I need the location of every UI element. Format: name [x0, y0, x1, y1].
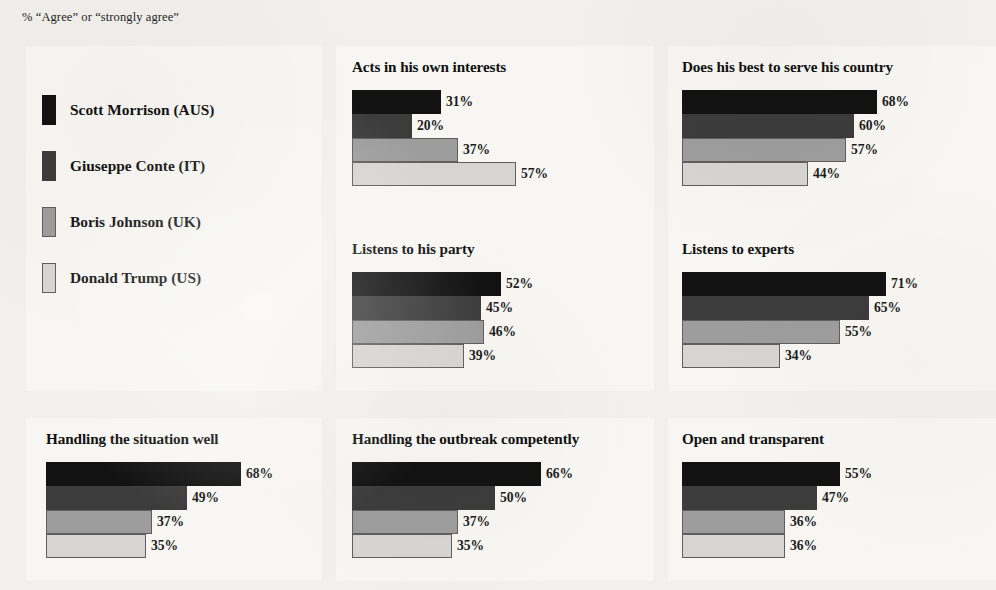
bar-s2 — [352, 510, 458, 534]
bar-row: 46% — [352, 320, 533, 344]
bar-s0 — [682, 462, 840, 486]
bar-s0 — [352, 90, 441, 114]
bar-value-label: 60% — [859, 118, 886, 134]
bar-row: 55% — [682, 320, 918, 344]
bar-s2 — [682, 138, 846, 162]
bar-value-label: 65% — [874, 300, 901, 316]
legend-swatch-icon — [42, 95, 56, 125]
chart-title: Acts in his own interests — [352, 58, 506, 76]
bar-group: 55%47%36%36% — [682, 462, 872, 558]
bar-value-label: 46% — [489, 324, 516, 340]
bar-row: 36% — [682, 510, 872, 534]
bar-value-label: 55% — [845, 466, 872, 482]
bar-s1 — [46, 486, 187, 510]
bar-row: 47% — [682, 486, 872, 510]
bar-value-label: 37% — [157, 514, 184, 530]
legend-item-boris-johnson: Boris Johnson (UK) — [42, 194, 314, 250]
chart-panel: Listens to experts71%65%55%34% — [668, 228, 996, 391]
bar-s1 — [682, 296, 869, 320]
bar-value-label: 37% — [463, 142, 490, 158]
bar-s0 — [682, 90, 877, 114]
bar-s1 — [352, 486, 495, 510]
bar-row: 37% — [46, 510, 273, 534]
bar-s2 — [46, 510, 152, 534]
legend-swatch-icon — [42, 151, 56, 181]
bar-row: 49% — [46, 486, 273, 510]
bar-s2 — [352, 320, 484, 344]
bar-row: 45% — [352, 296, 533, 320]
chart-title: Listens to his party — [352, 240, 474, 258]
bar-s3 — [352, 162, 516, 186]
bar-group: 68%49%37%35% — [46, 462, 273, 558]
bar-s3 — [682, 162, 808, 186]
chart-title: Handling the situation well — [46, 430, 218, 448]
bar-value-label: 36% — [790, 514, 817, 530]
bar-value-label: 57% — [851, 142, 878, 158]
legend-item-giuseppe-conte: Giuseppe Conte (IT) — [42, 138, 314, 194]
bar-row: 52% — [352, 272, 533, 296]
bar-s3 — [352, 534, 452, 558]
bar-row: 55% — [682, 462, 872, 486]
bar-row: 20% — [352, 114, 548, 138]
bar-value-label: 20% — [417, 118, 444, 134]
bar-row: 39% — [352, 344, 533, 368]
bar-s2 — [682, 320, 840, 344]
bar-value-label: 52% — [506, 276, 533, 292]
bar-value-label: 35% — [151, 538, 178, 554]
bar-s3 — [682, 344, 780, 368]
page-subtitle: % “Agree” or “strongly agree” — [22, 10, 179, 25]
bar-s0 — [352, 462, 541, 486]
chart-panel: Open and transparent55%47%36%36% — [668, 418, 996, 581]
bar-row: 68% — [46, 462, 273, 486]
bar-row: 34% — [682, 344, 918, 368]
legend-item-label: Giuseppe Conte (IT) — [70, 157, 205, 175]
bar-value-label: 71% — [891, 276, 918, 292]
bar-row: 37% — [352, 510, 573, 534]
bar-row: 71% — [682, 272, 918, 296]
bar-group: 68%60%57%44% — [682, 90, 909, 186]
bar-value-label: 49% — [192, 490, 219, 506]
legend-swatch-icon — [42, 207, 56, 237]
bar-value-label: 37% — [463, 514, 490, 530]
bar-group: 66%50%37%35% — [352, 462, 573, 558]
bar-value-label: 45% — [486, 300, 513, 316]
bar-value-label: 34% — [785, 348, 812, 364]
bar-value-label: 36% — [790, 538, 817, 554]
bar-value-label: 50% — [500, 490, 527, 506]
bar-s3 — [352, 344, 464, 368]
chart-title: Listens to experts — [682, 240, 794, 258]
bar-s3 — [682, 534, 785, 558]
bar-value-label: 55% — [845, 324, 872, 340]
bar-group: 52%45%46%39% — [352, 272, 533, 368]
bar-value-label: 47% — [822, 490, 849, 506]
bar-group: 71%65%55%34% — [682, 272, 918, 368]
bar-row: 37% — [352, 138, 548, 162]
chart-title: Handling the outbreak competently — [352, 430, 579, 448]
bar-s1 — [352, 296, 481, 320]
legend-list: Scott Morrison (AUS) Giuseppe Conte (IT)… — [42, 82, 314, 306]
bar-row: 35% — [46, 534, 273, 558]
legend-item-scott-morrison: Scott Morrison (AUS) — [42, 82, 314, 138]
bar-value-label: 68% — [246, 466, 273, 482]
bar-s2 — [352, 138, 458, 162]
bar-value-label: 57% — [521, 166, 548, 182]
bar-row: 60% — [682, 114, 909, 138]
bar-s3 — [46, 534, 146, 558]
chart-title: Does his best to serve his country — [682, 58, 893, 76]
legend-item-label: Scott Morrison (AUS) — [70, 101, 214, 119]
bar-s1 — [682, 486, 817, 510]
bar-s2 — [682, 510, 785, 534]
bar-row: 65% — [682, 296, 918, 320]
bar-group: 31%20%37%57% — [352, 90, 548, 186]
chart-panel: Listens to his party52%45%46%39% — [336, 228, 654, 391]
bar-row: 57% — [352, 162, 548, 186]
bar-value-label: 31% — [446, 94, 473, 110]
bar-s0 — [682, 272, 886, 296]
legend-item-label: Donald Trump (US) — [70, 269, 201, 287]
bar-value-label: 68% — [882, 94, 909, 110]
bar-value-label: 35% — [457, 538, 484, 554]
bar-row: 66% — [352, 462, 573, 486]
chart-panel: Handling the situation well68%49%37%35% — [26, 418, 322, 581]
bar-value-label: 44% — [813, 166, 840, 182]
legend-swatch-icon — [42, 263, 56, 293]
